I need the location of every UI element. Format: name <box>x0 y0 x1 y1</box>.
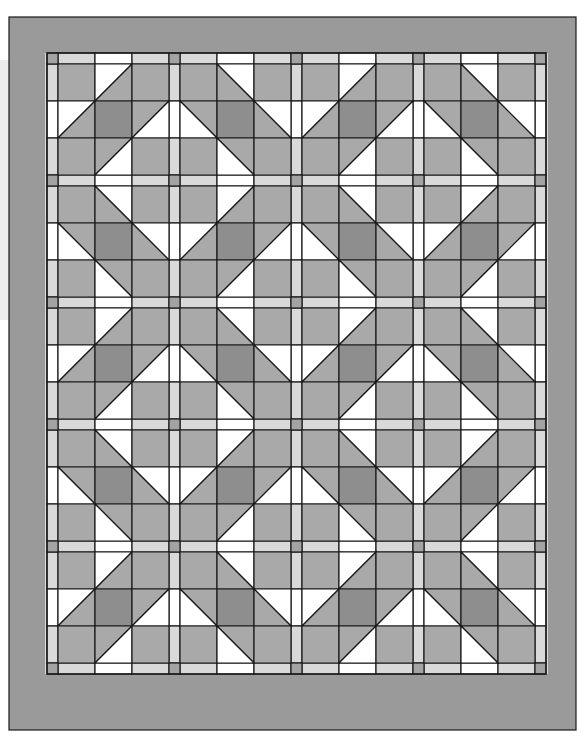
block-corner-square <box>424 626 461 663</box>
sashing-horizontal-segment <box>132 175 169 186</box>
block-corner-square <box>498 138 535 175</box>
sashing-vertical-segment <box>47 186 58 223</box>
sashing-vertical-segment <box>47 138 58 175</box>
sashing-vertical-segment <box>291 589 302 626</box>
sashing-vertical-segment <box>291 223 302 260</box>
block-corner-square <box>498 186 535 223</box>
sashing-horizontal-segment <box>58 175 95 186</box>
cornerstone <box>169 419 180 430</box>
sashing-horizontal-segment <box>95 419 132 430</box>
sashing-vertical-segment <box>535 186 546 223</box>
sashing-vertical-segment <box>47 626 58 663</box>
sashing-horizontal-segment <box>254 541 291 552</box>
sashing-horizontal-segment <box>461 663 498 674</box>
block-corner-square <box>180 504 217 541</box>
sashing-horizontal-segment <box>58 297 95 308</box>
sashing-horizontal-segment <box>132 53 169 64</box>
block-corner-square <box>132 430 169 467</box>
sashing-horizontal-segment <box>132 541 169 552</box>
sashing-horizontal-segment <box>424 297 461 308</box>
sashing-horizontal-segment <box>376 663 413 674</box>
cornerstone <box>535 419 546 430</box>
sashing-vertical-segment <box>291 430 302 467</box>
sashing-horizontal-segment <box>461 419 498 430</box>
block-corner-square <box>498 626 535 663</box>
sashing-vertical-segment <box>413 552 424 589</box>
block-center-square <box>217 467 254 504</box>
cornerstone <box>291 53 302 64</box>
block-corner-square <box>180 260 217 297</box>
cornerstone <box>291 663 302 674</box>
sashing-horizontal-segment <box>217 297 254 308</box>
sashing-horizontal-segment <box>339 541 376 552</box>
sashing-vertical-segment <box>169 186 180 223</box>
sashing-vertical-segment <box>169 260 180 297</box>
sashing-vertical-segment <box>535 382 546 419</box>
sashing-vertical-segment <box>169 430 180 467</box>
block-center-square <box>339 345 376 382</box>
cornerstone <box>413 419 424 430</box>
sashing-vertical-segment <box>291 308 302 345</box>
sashing-vertical-segment <box>535 101 546 138</box>
sashing-vertical-segment <box>291 260 302 297</box>
page-shadow <box>0 60 9 320</box>
block-corner-square <box>376 138 413 175</box>
sashing-horizontal-segment <box>132 297 169 308</box>
block-corner-square <box>302 626 339 663</box>
sashing-horizontal-segment <box>339 175 376 186</box>
sashing-vertical-segment <box>47 260 58 297</box>
sashing-vertical-segment <box>169 345 180 382</box>
cornerstone <box>291 297 302 308</box>
block-corner-square <box>424 430 461 467</box>
cornerstone <box>413 175 424 186</box>
block-corner-square <box>254 308 291 345</box>
block-center-square <box>95 223 132 260</box>
sashing-vertical-segment <box>413 186 424 223</box>
sashing-horizontal-segment <box>302 53 339 64</box>
sashing-vertical-segment <box>47 64 58 101</box>
block-corner-square <box>302 504 339 541</box>
sashing-horizontal-segment <box>302 663 339 674</box>
sashing-horizontal-segment <box>254 175 291 186</box>
sashing-horizontal-segment <box>302 419 339 430</box>
sashing-horizontal-segment <box>58 663 95 674</box>
block-center-square <box>461 101 498 138</box>
block-corner-square <box>376 430 413 467</box>
block-center-square <box>339 101 376 138</box>
sashing-vertical-segment <box>413 626 424 663</box>
block-corner-square <box>180 308 217 345</box>
sashing-vertical-segment <box>47 467 58 504</box>
sashing-horizontal-segment <box>217 175 254 186</box>
sashing-vertical-segment <box>291 138 302 175</box>
cornerstone <box>47 663 58 674</box>
sashing-horizontal-segment <box>302 541 339 552</box>
block-corner-square <box>424 64 461 101</box>
block-corner-square <box>424 382 461 419</box>
sashing-vertical-segment <box>291 552 302 589</box>
sashing-vertical-segment <box>169 552 180 589</box>
sashing-horizontal-segment <box>58 541 95 552</box>
block-center-square <box>461 223 498 260</box>
block-center-square <box>217 223 254 260</box>
block-corner-square <box>254 186 291 223</box>
sashing-horizontal-segment <box>498 53 535 64</box>
block-corner-square <box>58 186 95 223</box>
sashing-vertical-segment <box>413 467 424 504</box>
block-corner-square <box>302 308 339 345</box>
sashing-horizontal-segment <box>58 419 95 430</box>
sashing-vertical-segment <box>47 382 58 419</box>
sashing-vertical-segment <box>535 260 546 297</box>
cornerstone <box>169 175 180 186</box>
sashing-horizontal-segment <box>498 297 535 308</box>
block-corner-square <box>498 552 535 589</box>
block-corner-square <box>498 64 535 101</box>
block-corner-square <box>302 260 339 297</box>
sashing-vertical-segment <box>413 64 424 101</box>
sashing-vertical-segment <box>535 467 546 504</box>
cornerstone <box>47 53 58 64</box>
sashing-horizontal-segment <box>217 541 254 552</box>
block-corner-square <box>254 64 291 101</box>
block-corner-square <box>498 382 535 419</box>
sashing-vertical-segment <box>413 345 424 382</box>
block-corner-square <box>180 382 217 419</box>
